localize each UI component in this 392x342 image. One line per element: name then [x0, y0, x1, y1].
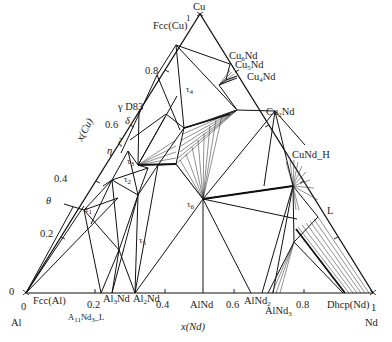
- label-cund-h: CuNd_H: [292, 150, 330, 161]
- bottom-tick-0.6: 0.6: [226, 300, 239, 311]
- label-delta: δ: [125, 116, 130, 127]
- bottom-tick-1: 1: [371, 303, 376, 314]
- label-cu4nd: Cu4Nd: [247, 72, 276, 84]
- corner-al-label: Al: [11, 318, 22, 329]
- left-tick-0.4: 0.4: [54, 174, 67, 185]
- label-cu2nd: Cu2Nd: [266, 107, 295, 119]
- label-fcc-cu: Fcc(Cu): [153, 21, 187, 32]
- left-tick-0.6: 0.6: [105, 120, 118, 131]
- axis-title-xnd: x(Nd): [181, 322, 205, 333]
- ternary-phase-diagram: [0, 0, 392, 342]
- corner-nd-label: Nd: [365, 318, 378, 329]
- left-tick-0.8: 0.8: [145, 66, 158, 77]
- left-tick-0: 0: [9, 287, 14, 298]
- label-al2nd: Al2Nd: [133, 294, 160, 306]
- label-dhcp-nd: Dhcp(Nd): [327, 300, 370, 311]
- label-liquid: L: [327, 206, 333, 217]
- bottom-tick-0.2: 0.2: [87, 300, 100, 311]
- bottom-tick-0.8: 0.8: [296, 300, 309, 311]
- label-gamma-d83: γ D83: [118, 102, 143, 113]
- corner-cu-label: Cu: [193, 2, 205, 13]
- label-tau6: τ6: [187, 200, 194, 211]
- label-theta: θ: [46, 196, 51, 207]
- bottom-tick-0: 0: [21, 302, 26, 313]
- label-fcc-al: Fcc(Al): [33, 296, 66, 307]
- label-alnd: AlNd: [190, 300, 213, 311]
- label-eta: η: [107, 146, 112, 157]
- label-tau4: τ4: [186, 85, 193, 96]
- label-tau1: τ1: [85, 205, 92, 216]
- left-tick-0.2: 0.2: [40, 229, 53, 240]
- label-tau5: τ5: [139, 236, 146, 247]
- bold-boundaries: [138, 114, 345, 293]
- label-al3nd: Al3Nd: [103, 294, 130, 306]
- label-alnd2: AlNd2: [244, 296, 271, 308]
- label-tau2: τ2: [124, 175, 131, 186]
- label-tau3: τ3: [127, 157, 134, 168]
- label-al11nd3-l: A11Nd3_L: [68, 313, 104, 324]
- label-zeta: ζ: [118, 137, 122, 148]
